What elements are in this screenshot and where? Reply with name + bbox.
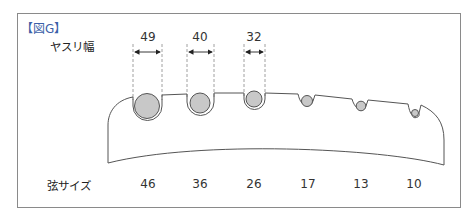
string-46-circle xyxy=(135,94,160,119)
string-10-circle xyxy=(412,110,419,117)
string-17-circle xyxy=(302,96,313,107)
string-26-circle xyxy=(246,91,262,107)
string-36-circle xyxy=(190,93,210,113)
nut-drawing xyxy=(0,0,474,220)
string-circles xyxy=(135,91,419,119)
nut-slot-diagram: 【図G】 ヤスリ幅 弦サイズ 49 40 32 46 36 26 17 13 1… xyxy=(0,0,474,220)
string-13-circle xyxy=(356,101,366,111)
